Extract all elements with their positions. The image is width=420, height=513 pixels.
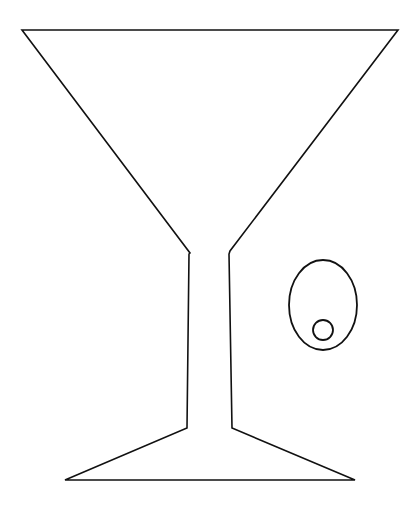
drawing-canvas — [0, 0, 420, 513]
background — [0, 0, 420, 513]
